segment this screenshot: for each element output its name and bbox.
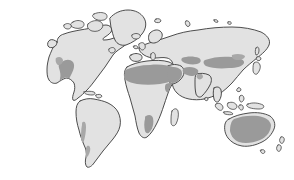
island-new-zealand-north (280, 137, 285, 144)
island-novaya-zemlya (185, 21, 190, 27)
island-new-guinea (247, 103, 264, 109)
world-map-graphic (0, 0, 294, 180)
island-newfoundland (109, 48, 116, 54)
island-new-zealand-south (277, 145, 282, 152)
island-ireland (133, 46, 138, 49)
island-iceland (132, 34, 141, 40)
island-svalbard (155, 19, 161, 23)
region-alaska (48, 40, 57, 48)
island-baffin (87, 21, 102, 32)
island-arctic-islet-b (228, 22, 232, 25)
island-hispaniola (96, 94, 102, 98)
region-italy (151, 53, 156, 61)
island-banks (64, 24, 72, 30)
island-hokkaido (256, 57, 261, 61)
region-southeast-asia (213, 87, 221, 102)
island-philippines (239, 95, 244, 102)
region-iberia (130, 54, 142, 62)
island-sakhalin (255, 47, 259, 55)
island-cuba (84, 91, 95, 95)
world-map-figure (0, 0, 294, 180)
island-sri-lanka (204, 97, 208, 100)
island-arctic-islet-a (214, 20, 218, 23)
